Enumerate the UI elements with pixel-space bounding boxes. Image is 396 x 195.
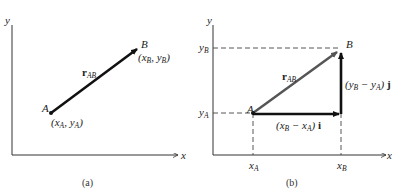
figure-a-coord-b: (xB, yB)	[138, 52, 170, 65]
figure-a-vector-label: rAB	[82, 67, 96, 80]
figure-b-horizontal-component-label: (xB − xA) i	[276, 120, 321, 133]
figure-a-caption: (a)	[82, 177, 93, 188]
figure-a-coord-a: (xA, yA)	[51, 117, 83, 130]
figure-a-axis-x-label: x	[181, 150, 186, 161]
figure-b-caption: (b)	[286, 177, 298, 188]
figure-a-point-a: A	[42, 103, 49, 114]
figure-b-tick-yb: yB	[199, 42, 208, 55]
figure-a-vector-rab	[51, 49, 137, 113]
figure-a-axes	[12, 25, 178, 155]
figure-a-axis-y-label: y	[5, 15, 10, 26]
figure-b-vector-label: rAB	[282, 71, 296, 84]
figure-b-tick-xa: xA	[249, 160, 258, 173]
figure-b-tick-xb: xB	[337, 160, 346, 173]
figure-a-point-b: B	[141, 39, 148, 50]
figure-b-point-a: A	[247, 104, 254, 115]
figure-b-axis-y-label: y	[207, 15, 212, 26]
figure-b-axis-x-label: x	[387, 150, 392, 161]
figure-b-point-b: B	[346, 39, 353, 50]
figure-b-tick-ya: yA	[199, 107, 208, 120]
figure-b-vertical-component-label: (yB − yA) j	[345, 79, 391, 92]
